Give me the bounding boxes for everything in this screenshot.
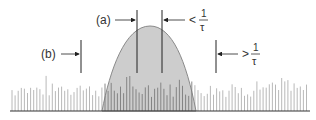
signal-hump [102, 26, 196, 111]
label-lt-frac-den: τ [200, 21, 205, 33]
label-gt-symbol: > [242, 47, 249, 61]
spectrum-diagram: (a) < 1 τ (b) > 1 τ [0, 0, 316, 120]
label-a: (a) [96, 13, 111, 27]
label-lt-frac-num: 1 [201, 8, 207, 19]
label-b: (b) [41, 47, 56, 61]
label-lt-symbol: < [189, 13, 196, 27]
label-gt-frac-den: τ [252, 55, 257, 67]
label-gt-frac-num: 1 [253, 42, 259, 53]
